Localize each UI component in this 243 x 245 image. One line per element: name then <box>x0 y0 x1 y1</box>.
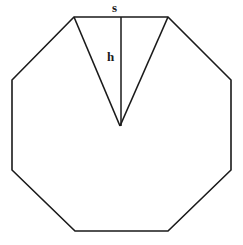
octagon-diagram-svg <box>0 0 243 245</box>
geometry-figure: s h <box>0 0 243 245</box>
side-length-label: s <box>112 1 117 14</box>
triangle-right-edge <box>120 17 168 126</box>
triangle-left-edge <box>74 17 120 126</box>
height-label: h <box>107 50 114 63</box>
